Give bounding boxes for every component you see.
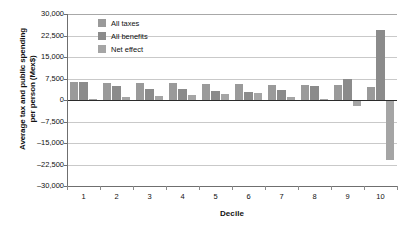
bar — [244, 92, 253, 100]
x-axis-tick-marks — [67, 186, 397, 191]
y-tick-mark — [64, 79, 67, 80]
x-tick-mark — [100, 186, 101, 190]
x-tick-mark — [331, 186, 332, 190]
bar — [235, 84, 244, 100]
y-tick-label: 15,000 — [26, 53, 64, 61]
bar — [386, 100, 395, 160]
y-tick-label: 0 — [26, 96, 64, 104]
bar — [367, 87, 376, 100]
legend-item[interactable]: All benefits — [98, 30, 148, 42]
bar — [343, 79, 352, 100]
x-axis-tick-labels: 12345678910 — [67, 192, 397, 204]
x-tick-label: 7 — [270, 192, 294, 201]
bar — [79, 82, 88, 100]
y-axis-line — [67, 14, 68, 186]
x-tick-label: 8 — [303, 192, 327, 201]
y-tick-label: 7,500 — [26, 75, 64, 83]
x-axis-title: Decile — [67, 209, 397, 218]
y-tick-label: –22,500 — [26, 161, 64, 169]
legend: All taxesAll benefitsNet effect — [98, 17, 148, 56]
x-tick-mark — [199, 186, 200, 190]
y-tick-mark — [64, 122, 67, 123]
y-tick-label: 22,500 — [26, 32, 64, 40]
bar — [136, 83, 145, 100]
y-axis-tick-labels: 30,00022,50015,0007,5000–7,500–15,000–22… — [26, 14, 64, 186]
legend-swatch-icon — [98, 45, 106, 53]
y-tick-mark — [64, 143, 67, 144]
legend-swatch-icon — [98, 32, 106, 40]
x-tick-mark — [397, 186, 398, 190]
x-tick-mark — [265, 186, 266, 190]
y-tick-mark — [64, 100, 67, 101]
bar — [301, 85, 310, 100]
x-tick-mark — [298, 186, 299, 190]
zero-baseline — [67, 100, 397, 101]
y-tick-label: –30,000 — [26, 182, 64, 190]
legend-label: Net effect — [111, 45, 143, 54]
bar-chart: Average tax and public spending per pers… — [0, 0, 409, 232]
bar — [376, 30, 385, 100]
bar — [310, 86, 319, 100]
x-tick-label: 3 — [138, 192, 162, 201]
y-tick-mark — [64, 36, 67, 37]
x-tick-mark — [364, 186, 365, 190]
bar — [145, 89, 154, 100]
y-tick-label: –7,500 — [26, 118, 64, 126]
bar — [277, 90, 286, 100]
bar — [103, 83, 112, 100]
y-tick-mark — [64, 57, 67, 58]
legend-label: All taxes — [111, 19, 139, 28]
bar — [202, 84, 211, 100]
x-tick-mark — [133, 186, 134, 190]
bar — [70, 82, 79, 100]
x-tick-label: 5 — [204, 192, 228, 201]
x-tick-label: 9 — [336, 192, 360, 201]
bar — [178, 89, 187, 100]
bar — [268, 85, 277, 100]
x-tick-label: 4 — [171, 192, 195, 201]
legend-item[interactable]: All taxes — [98, 17, 148, 29]
legend-swatch-icon — [98, 19, 106, 27]
x-tick-mark — [67, 186, 68, 190]
bar — [211, 91, 220, 100]
y-tick-mark — [64, 186, 67, 187]
x-tick-mark — [232, 186, 233, 190]
y-tick-mark — [64, 165, 67, 166]
legend-item[interactable]: Net effect — [98, 43, 148, 55]
x-tick-label: 2 — [105, 192, 129, 201]
bar — [169, 83, 178, 100]
bar — [112, 86, 121, 100]
y-tick-label: –15,000 — [26, 139, 64, 147]
bar — [334, 85, 343, 100]
y-tick-mark — [64, 14, 67, 15]
x-tick-mark — [166, 186, 167, 190]
bar — [254, 93, 263, 100]
x-tick-label: 6 — [237, 192, 261, 201]
x-tick-label: 1 — [72, 192, 96, 201]
legend-label: All benefits — [111, 32, 148, 41]
y-tick-label: 30,000 — [26, 10, 64, 18]
x-tick-label: 10 — [369, 192, 393, 201]
